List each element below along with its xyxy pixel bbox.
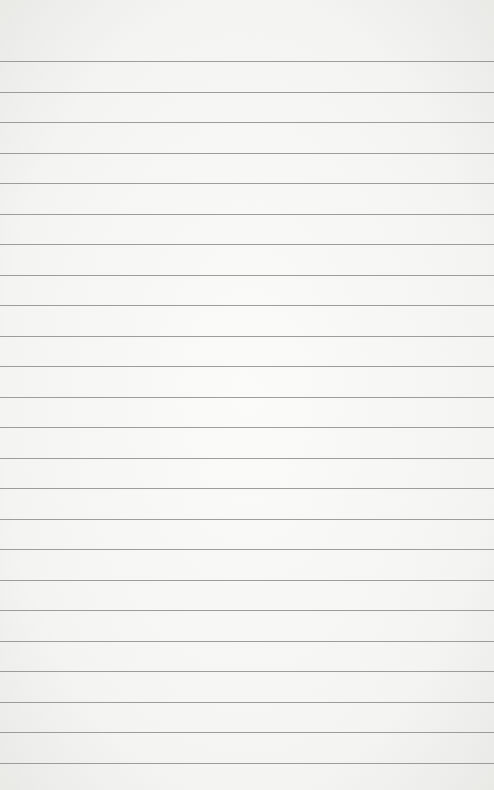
lined-paper: blank lined notebook paper — [0, 0, 494, 790]
ruled-line — [0, 488, 494, 489]
ruled-line — [0, 244, 494, 245]
ruled-line — [0, 427, 494, 428]
ruled-line — [0, 122, 494, 123]
ruled-line — [0, 336, 494, 337]
ruled-line — [0, 183, 494, 184]
ruled-line — [0, 580, 494, 581]
ruled-line — [0, 671, 494, 672]
ruled-line — [0, 153, 494, 154]
ruled-line — [0, 702, 494, 703]
ruled-line — [0, 763, 494, 764]
ruled-line — [0, 549, 494, 550]
ruled-line — [0, 732, 494, 733]
ruled-line — [0, 641, 494, 642]
ruled-line — [0, 366, 494, 367]
ruled-line — [0, 214, 494, 215]
ruled-line — [0, 397, 494, 398]
ruled-line — [0, 458, 494, 459]
ruled-line — [0, 305, 494, 306]
ruled-line — [0, 610, 494, 611]
ruled-line — [0, 275, 494, 276]
ruled-line — [0, 92, 494, 93]
ruled-line — [0, 61, 494, 62]
ruled-line — [0, 519, 494, 520]
